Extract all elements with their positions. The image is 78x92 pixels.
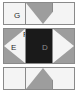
region-label-d: D xyxy=(42,44,48,52)
bottom-row-panel[interactable] xyxy=(3,67,75,90)
region-label-e: E xyxy=(11,44,16,52)
top-row-panel[interactable]: G xyxy=(3,2,75,25)
down-chevron-notch-icon xyxy=(26,3,60,24)
region-label-g: G xyxy=(14,12,20,20)
gray-wedge-top-right-icon xyxy=(53,29,74,46)
middle-row-panel[interactable]: F E D xyxy=(3,28,75,64)
middle-left-cell[interactable]: F E xyxy=(4,29,26,63)
gray-wedge-bottom-right-icon xyxy=(53,46,74,63)
middle-row-divider-left xyxy=(25,29,26,63)
middle-right-cell[interactable] xyxy=(52,29,74,63)
middle-row-divider-right xyxy=(52,29,53,63)
top-row-center-gray xyxy=(26,3,52,24)
bottom-row-center-gray xyxy=(26,68,52,89)
middle-center-square[interactable]: D xyxy=(26,29,52,63)
up-chevron-notch-icon xyxy=(26,68,60,89)
diagram-canvas: G F E D xyxy=(0,0,78,92)
